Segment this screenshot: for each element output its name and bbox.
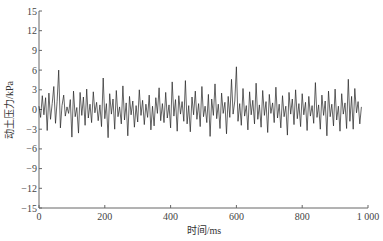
- y-tick-label: −12: [21, 183, 37, 194]
- y-tick-label: 3: [32, 84, 37, 95]
- y-tick-label: 15: [27, 6, 37, 17]
- y-tick-label: −9: [26, 163, 37, 174]
- x-tick-label: 400: [163, 211, 178, 222]
- x-tick-label: 800: [295, 211, 310, 222]
- x-axis: 02004006008001 000: [37, 205, 380, 222]
- y-tick-label: 9: [32, 45, 37, 56]
- y-tick-label: −15: [21, 203, 37, 214]
- x-tick-label: 200: [97, 211, 112, 222]
- y-tick-label: 0: [32, 104, 37, 115]
- y-tick-label: −6: [26, 143, 37, 154]
- y-tick-label: 12: [27, 25, 37, 36]
- y-axis: 15129630−3−6−9−12−15: [21, 6, 42, 214]
- y-tick-label: −3: [26, 124, 37, 135]
- pressure-signal-line: [39, 67, 361, 138]
- plot-area: [39, 67, 361, 138]
- x-tick-label: 0: [37, 211, 42, 222]
- x-axis-label: 时间/ms: [187, 224, 222, 236]
- chart: 15129630−3−6−9−12−15 02004006008001 000 …: [0, 0, 383, 241]
- x-tick-label: 1 000: [357, 211, 380, 222]
- x-tick-label: 600: [229, 211, 244, 222]
- y-tick-label: 6: [32, 65, 37, 76]
- y-axis-label: 动土压力/kPa: [3, 81, 15, 139]
